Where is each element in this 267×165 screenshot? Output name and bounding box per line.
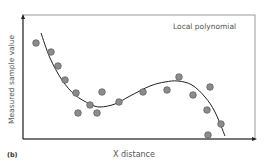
data-point: [55, 63, 62, 70]
data-point: [48, 49, 55, 56]
chart-title: Local polynomial: [173, 22, 236, 31]
data-points: [33, 40, 225, 139]
data-point: [73, 90, 80, 97]
data-point: [33, 40, 40, 47]
data-point: [116, 99, 123, 106]
panel-label: (b): [7, 151, 18, 159]
data-point: [87, 102, 94, 109]
data-point: [99, 89, 106, 96]
data-point: [75, 110, 82, 117]
data-point: [176, 74, 183, 81]
plot-frame: [23, 15, 255, 139]
fit-curve: [41, 33, 225, 136]
chart: Local polynomial X distance Measured sam…: [0, 0, 267, 165]
data-point: [164, 87, 171, 94]
data-point: [94, 110, 101, 117]
data-point: [207, 84, 214, 91]
x-axis-label: X distance: [113, 150, 155, 159]
data-point: [205, 132, 212, 139]
data-point: [62, 77, 69, 84]
data-point: [140, 89, 147, 96]
y-axis-label: Measured sample value: [7, 34, 16, 124]
data-point: [204, 107, 211, 114]
data-point: [190, 92, 197, 99]
data-point: [218, 121, 225, 128]
